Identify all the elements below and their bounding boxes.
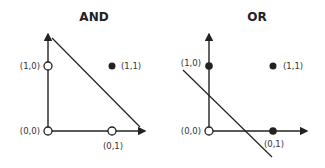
and-point-01 (108, 127, 116, 135)
or-title: OR (247, 10, 266, 24)
and-label-11: (1,1) (121, 61, 141, 71)
or-label-11: (1,1) (283, 61, 303, 71)
or-point-01 (269, 127, 277, 135)
or-point-11 (270, 63, 277, 70)
or-point-10 (205, 62, 213, 70)
diagram-canvas: AND (0,0) (1,0) (0,1) (1,1) OR (0,0) (1,… (0, 0, 325, 168)
and-decision-boundary (52, 38, 140, 127)
and-point-10 (44, 62, 52, 70)
or-label-10: (1,0) (181, 58, 201, 68)
and-point-00 (44, 127, 52, 135)
or-decision-boundary (183, 70, 272, 157)
and-point-11 (109, 63, 116, 70)
or-panel: OR (0,0) (1,0) (0,1) (1,1) (181, 10, 307, 157)
and-title: AND (79, 10, 108, 24)
and-label-00: (0,0) (20, 126, 40, 136)
and-label-01: (0,1) (103, 141, 123, 151)
or-label-00: (0,0) (181, 126, 201, 136)
or-label-01: (0,1) (264, 139, 284, 149)
and-panel: AND (0,0) (1,0) (0,1) (1,1) (20, 10, 145, 151)
or-point-00 (205, 127, 213, 135)
and-label-10: (1,0) (20, 61, 40, 71)
